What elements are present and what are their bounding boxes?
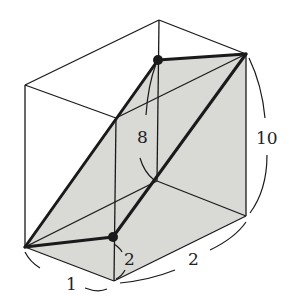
edge-top-back-right: [159, 20, 246, 54]
arc-10-bottom: [250, 155, 267, 213]
shaded-region: [25, 54, 246, 281]
point-bottom-icon: [108, 232, 118, 242]
edge-top-left-front: [25, 85, 116, 118]
label-8: 8: [137, 127, 148, 147]
edge-top-left-back: [25, 20, 159, 85]
label-2-right: 2: [188, 249, 199, 269]
box-diagram: 8 10 1 2 2: [0, 0, 289, 302]
point-top-icon: [153, 55, 163, 65]
arc-1-right: [85, 288, 107, 291]
arc-10-top: [249, 58, 265, 118]
label-1: 1: [66, 274, 77, 294]
diagram-canvas: 8 10 1 2 2: [0, 0, 289, 302]
arc-1-left: [25, 252, 40, 268]
label-10: 10: [256, 128, 278, 148]
label-2-front: 2: [124, 249, 135, 269]
